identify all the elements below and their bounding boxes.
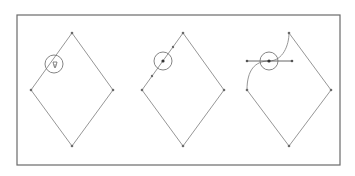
selected-anchor-point — [267, 59, 270, 62]
anchor-points — [30, 32, 115, 148]
anchor-point — [182, 145, 185, 148]
handle-endpoint — [246, 60, 249, 63]
anchor-point — [71, 145, 74, 148]
straight-path-segments — [247, 33, 331, 146]
handle-endpoint — [291, 60, 294, 63]
anchor-point — [30, 89, 33, 92]
diamond-path — [31, 33, 113, 146]
panel-step-1-hover-segment — [30, 32, 115, 148]
anchor-points — [246, 32, 333, 148]
anchor-point — [330, 89, 333, 92]
anchor-point — [288, 145, 291, 148]
panel-step-3-drag-handles — [246, 32, 333, 148]
anchor-point — [182, 32, 185, 35]
anchor-point — [288, 32, 291, 35]
added-anchor-point — [151, 75, 153, 77]
anchor-point — [223, 89, 226, 92]
anchor-point — [112, 89, 115, 92]
added-anchor-point — [161, 59, 164, 62]
anchor-point — [246, 89, 249, 92]
anchor-points — [141, 32, 226, 148]
diamond-path — [142, 33, 224, 146]
panel-step-2-point-added — [141, 32, 226, 148]
diagram-canvas — [0, 0, 355, 176]
anchor-point — [71, 32, 74, 35]
pen-tool-diagram — [0, 0, 355, 176]
anchor-point — [141, 89, 144, 92]
added-anchor-point — [172, 46, 174, 48]
